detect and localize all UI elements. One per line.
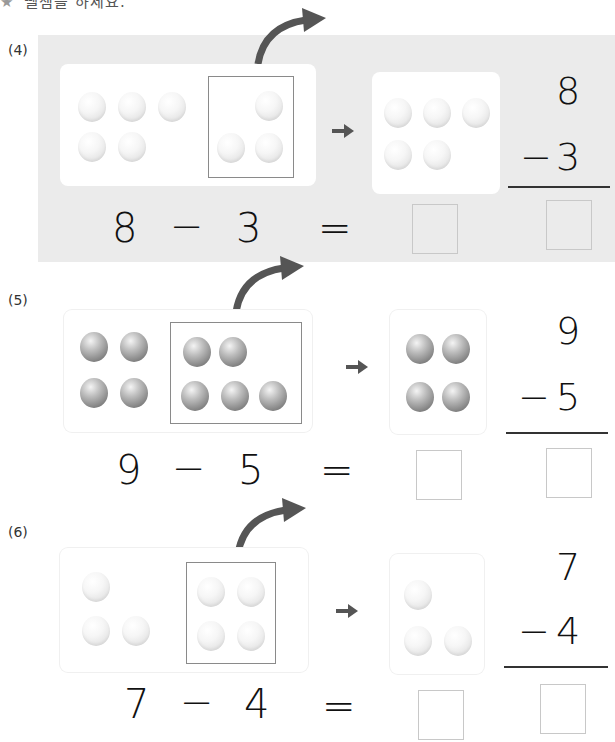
ball [118,132,146,162]
vertical-subtrahend: 4 [556,612,580,650]
ball [406,382,434,412]
ball [444,626,472,656]
problem-label: (6) [8,524,28,540]
curved-arrow-icon [250,4,330,64]
objects-panel [64,310,312,432]
equation-equals: = [322,686,356,726]
ball [78,132,106,162]
ball [183,337,211,367]
equation-minus: − [172,448,206,488]
curved-arrow-icon [228,252,308,312]
ball [259,381,287,411]
ball [406,334,434,364]
ball [197,621,225,651]
ball [120,332,148,362]
ball [118,92,146,122]
ball [404,626,432,656]
vertical-rule [504,666,608,668]
equation-subtrahend: 3 [236,208,261,248]
ball [217,133,245,163]
ball [181,381,209,411]
equation-minus: − [180,682,214,722]
vertical-minuend: 8 [556,72,580,110]
equation-answer-box[interactable] [412,204,458,254]
right-arrow-icon [332,124,354,138]
ball [442,382,470,412]
ball [404,580,432,610]
ball [80,332,108,362]
vertical-subtrahend: 3 [556,138,580,176]
ball [384,140,412,170]
ball [82,616,110,646]
ball [462,98,490,128]
ball [255,91,283,121]
equation-minuend: 9 [116,450,141,490]
vertical-answer-box[interactable] [546,200,592,250]
ball [255,133,283,163]
ball [78,92,106,122]
objects-panel [60,548,308,672]
ball [442,334,470,364]
ball [82,572,110,602]
ball [197,577,225,607]
objects-panel [60,64,316,186]
problem-5: (5) 9 − 5 9 − 5 = [0,250,615,490]
subtracted-group-box [186,562,276,664]
vertical-minuend: 9 [556,312,580,350]
equation-answer-box[interactable] [418,690,464,740]
ball [158,92,186,122]
equation-minuend: 7 [124,684,149,724]
subtracted-group-box [208,76,294,178]
right-arrow-icon [346,360,368,374]
result-panel [390,554,484,674]
vertical-operator: − [518,378,550,416]
ball [221,381,249,411]
equation-subtrahend: 4 [244,684,269,724]
equation-equals: = [320,450,354,490]
ball [120,378,148,408]
ball [237,577,265,607]
ball [423,140,451,170]
ball [423,98,451,128]
problem-4: (4) 8 − 3 8 − 3 = [0,0,615,262]
vertical-rule [506,432,608,434]
ball [80,378,108,408]
subtracted-group-box [170,322,302,424]
equation-minuend: 8 [112,208,137,248]
vertical-subtrahend: 5 [556,378,580,416]
problem-label: (4) [8,42,28,58]
vertical-rule [508,186,610,188]
ball [384,98,412,128]
vertical-operator: − [518,612,550,650]
result-panel [372,72,500,194]
vertical-answer-box[interactable] [540,684,586,734]
equation-subtrahend: 5 [238,450,263,490]
right-arrow-icon [336,604,358,618]
vertical-minuend: 7 [556,548,580,586]
ball [237,621,265,651]
equation-equals: = [318,208,352,248]
result-panel [390,310,486,434]
problem-label: (5) [8,292,28,308]
problem-6: (6) 7 − 4 7 − 4 = [0,490,615,742]
ball [122,616,150,646]
ball [219,337,247,367]
vertical-operator: − [520,138,552,176]
curved-arrow-icon [230,494,310,554]
equation-minus: − [170,206,204,246]
